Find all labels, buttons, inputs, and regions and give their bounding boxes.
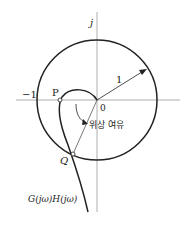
radius-label: 1: [116, 74, 122, 85]
point-p: [58, 98, 62, 102]
arrow-head-icon: [139, 69, 147, 75]
origin-label: 0: [100, 103, 106, 113]
point-p-label: P: [52, 87, 59, 98]
imag-axis-label: j: [88, 17, 93, 28]
point-q: [71, 152, 75, 156]
curve-label: G(jω)H(jω): [28, 194, 78, 204]
phase-margin-arc: [76, 104, 86, 123]
phase-margin-label: 위상 여유: [89, 119, 124, 130]
point-q-label: Q: [60, 155, 68, 166]
neg-one-label: −1: [22, 89, 37, 100]
nyquist-diagram: j −1 0 1 P Q 위상 여유 G(jω)H(jω): [0, 0, 189, 227]
